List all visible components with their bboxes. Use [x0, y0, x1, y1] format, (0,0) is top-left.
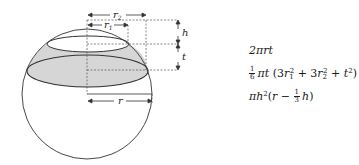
fraction-one-third: 13	[294, 89, 300, 104]
zone-area-text: 2πrt	[249, 44, 273, 57]
r-label: r	[118, 95, 124, 106]
segment-volume-formula: 16πt ((3r3r12 + 3r22 + t2)	[249, 66, 357, 81]
r2-label: r2	[113, 9, 122, 21]
zone-area-formula: 2πrt	[249, 44, 273, 57]
cap-volume-formula: πh2(r − 13h)	[249, 89, 313, 104]
sphere-diagram: r2 r1 h t r	[0, 0, 359, 165]
h-dimension	[176, 20, 180, 44]
fraction-one-sixth: 16	[249, 66, 255, 81]
h-label: h	[182, 27, 188, 38]
t-label: t	[182, 51, 187, 62]
large-section-ellipse	[27, 55, 148, 87]
t-dimension	[176, 44, 180, 70]
r1-label: r1	[104, 19, 113, 31]
